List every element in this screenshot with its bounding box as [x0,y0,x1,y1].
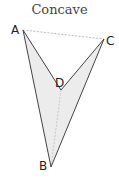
vertex-label-c: C [106,34,114,48]
vertex-label-b: B [39,159,47,173]
diagonal-ac [23,30,104,39]
quadrilateral-fill [23,30,104,167]
vertex-label-d: D [55,76,64,90]
vertex-label-a: A [11,23,20,37]
concave-quadrilateral-diagram: A C D B [0,0,119,179]
